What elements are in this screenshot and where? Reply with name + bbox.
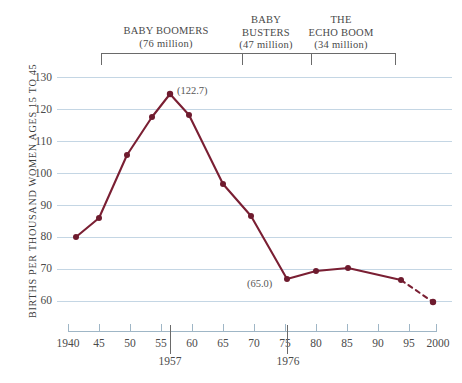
bracket-baby-boomers: [102, 54, 243, 66]
data-point-1980: [313, 268, 319, 274]
data-point-1976-trough: [284, 276, 290, 282]
data-point-1945: [96, 215, 102, 221]
bracket-echo-boom: [312, 54, 396, 66]
chart-vector-layer: [0, 0, 462, 383]
data-point-1955: [149, 114, 155, 120]
data-point-1965: [220, 181, 226, 187]
gridlines: [57, 78, 452, 302]
data-point-1950: [124, 152, 130, 158]
bracket-baby-busters: [243, 54, 312, 66]
data-point-1995: [398, 277, 404, 283]
data-point-1970: [248, 213, 254, 219]
series-markers: [73, 91, 436, 305]
x-axis: [68, 324, 437, 332]
birth-rate-line-chart: BIRTHS PER THOUSAND WOMEN AGES 15 TO 45 …: [0, 0, 462, 383]
data-point-1957-peak: [167, 91, 173, 97]
data-point-1985: [345, 265, 351, 271]
data-point-2000: [430, 299, 436, 305]
cohort-brackets: [102, 54, 396, 66]
data-point-1960: [186, 112, 192, 118]
series-line-solid: [76, 94, 401, 280]
x-callout-leaders: [171, 325, 288, 354]
data-point-1940: [73, 234, 79, 240]
series-line-dashed: [401, 280, 433, 302]
